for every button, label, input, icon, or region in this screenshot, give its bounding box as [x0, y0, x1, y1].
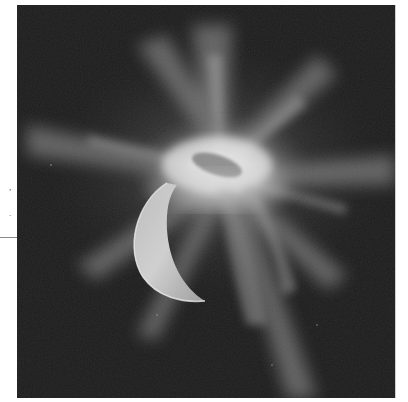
plume-photograph — [17, 5, 396, 398]
margin-text-fragment: . — [9, 209, 11, 218]
plume-illustration — [17, 5, 395, 398]
page-rule — [0, 237, 17, 238]
margin-text-fragment: , — [9, 183, 11, 192]
